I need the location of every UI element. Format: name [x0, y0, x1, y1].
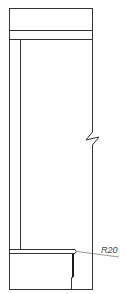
plinth-step: [72, 278, 74, 291]
technical-drawing: R20: [0, 0, 127, 294]
radius-label: R20: [101, 245, 118, 255]
bottom-shelf: [10, 250, 76, 254]
right-edge-break: [86, 8, 99, 290]
